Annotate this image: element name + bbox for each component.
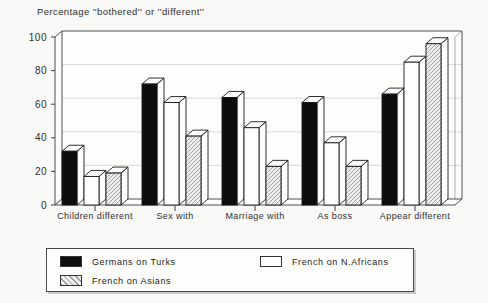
bar-side-face <box>317 97 324 205</box>
bar-hatch <box>186 136 201 205</box>
bar-side-face <box>281 160 288 205</box>
hatched-bar-swatch-icon <box>60 275 82 286</box>
y-axis-label: 40 <box>35 132 47 143</box>
bar-side-face <box>397 88 404 205</box>
black-bar-swatch-icon <box>60 256 82 267</box>
bar-side-face <box>157 78 164 205</box>
bar-side-face <box>179 97 186 205</box>
bar-side-face <box>201 130 208 205</box>
bar-hatch <box>106 173 121 205</box>
bar-black <box>142 84 157 205</box>
figure: Percentage ''bothered'' or ''different''… <box>0 0 488 303</box>
bar-side-face <box>77 145 84 205</box>
bar-white <box>324 143 339 205</box>
y-axis-label: 60 <box>35 99 47 110</box>
bar-white <box>164 103 179 205</box>
y-axis-label: 0 <box>41 200 47 211</box>
x-axis-label: As boss <box>318 211 353 221</box>
bar-hatch <box>266 166 281 205</box>
bar-black <box>382 94 397 205</box>
left-wall <box>55 31 62 205</box>
white-bar-swatch-icon <box>260 256 282 267</box>
legend-item-germans-on-turks: Germans on Turks <box>47 256 247 267</box>
bar-hatch <box>346 166 361 205</box>
bar-white <box>84 176 99 205</box>
legend-label: French on Asians <box>92 276 171 286</box>
bar-white <box>244 128 259 205</box>
bar-side-face <box>361 160 368 205</box>
legend: Germans on Turks French on N.Africans Fr… <box>46 248 414 292</box>
bar-black <box>302 103 317 205</box>
legend-item-french-on-nafricans: French on N.Africans <box>247 256 413 267</box>
y-axis-label: 80 <box>35 65 47 76</box>
bar-hatch <box>426 44 441 205</box>
plot-area: 020406080100Children differentSex withMa… <box>29 31 462 221</box>
x-axis-label: Children different <box>57 211 133 221</box>
bar-side-face <box>339 137 346 205</box>
legend-item-french-on-asians: French on Asians <box>47 275 247 286</box>
x-axis-label: Appear different <box>380 211 450 221</box>
x-axis-label: Marriage with <box>225 211 284 221</box>
legend-label: Germans on Turks <box>92 257 176 267</box>
bar-side-face <box>259 122 266 205</box>
y-axis-label: 20 <box>35 166 47 177</box>
bar-side-face <box>419 56 426 205</box>
bar-side-face <box>237 91 244 205</box>
y-axis-label: 100 <box>29 32 47 43</box>
x-axis-label: Sex with <box>156 211 193 221</box>
legend-label: French on N.Africans <box>292 257 389 267</box>
bar-black <box>222 97 237 205</box>
bar-side-face <box>441 38 448 205</box>
bar-white <box>404 62 419 205</box>
bar-black <box>62 151 77 205</box>
